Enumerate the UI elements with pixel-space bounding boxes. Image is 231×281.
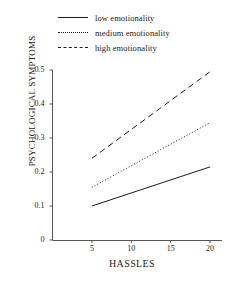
y-tick-label: 0: [23, 235, 45, 244]
y-tick-label: 0.1: [23, 201, 45, 210]
x-axis-title: HASSLES: [52, 258, 212, 269]
data-series-group: [92, 72, 210, 206]
series-line-solid: [92, 167, 210, 206]
chart-figure: low emotionality medium emotionality hig…: [0, 0, 231, 281]
x-tick-label: 10: [121, 244, 141, 253]
x-tick-label: 15: [161, 244, 181, 253]
y-axis-title: PSYCHOLOGICAL SYMPTOMS: [27, 21, 37, 181]
series-line-dashed: [92, 72, 210, 159]
x-tick-label: 20: [200, 244, 220, 253]
x-tick-label: 5: [82, 244, 102, 253]
series-line-dotted: [92, 123, 210, 188]
